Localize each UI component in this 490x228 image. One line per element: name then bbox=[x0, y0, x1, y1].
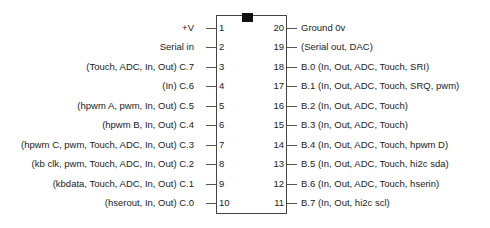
right-pin-label: B.2 (In, Out, ADC, Touch) bbox=[301, 99, 490, 113]
left-pin-lead bbox=[206, 106, 216, 107]
right-pin-lead bbox=[287, 184, 297, 185]
left-pin-number: 4 bbox=[219, 79, 237, 93]
right-pin-number: 13 bbox=[265, 157, 284, 171]
right-pin-label: (Serial out, DAC) bbox=[301, 40, 490, 54]
left-pin-label: (hpwm A, pwm, In, Out) C.5 bbox=[4, 99, 194, 113]
left-pin-lead bbox=[206, 125, 216, 126]
right-pin-number: 11 bbox=[265, 196, 284, 210]
left-pin-label: +V bbox=[4, 21, 194, 35]
pin-row: (Touch, ADC, In, Out) C.7318B.0 (In, Out… bbox=[0, 60, 490, 74]
right-pin-number: 12 bbox=[265, 177, 284, 191]
right-pin-lead bbox=[287, 47, 297, 48]
left-pin-label: (kbdata, Touch, ADC, In, Out) C.1 bbox=[4, 177, 194, 191]
right-pin-lead bbox=[287, 67, 297, 68]
right-pin-label: B.1 (In, Out, ADC, Touch, SRQ, pwm) bbox=[301, 79, 490, 93]
right-pin-label: Ground 0v bbox=[301, 21, 490, 35]
left-pin-label: (hpwm C, pwm, Touch, ADC, In, Out) C.3 bbox=[4, 138, 194, 152]
left-pin-number: 9 bbox=[219, 177, 237, 191]
right-pin-lead bbox=[287, 164, 297, 165]
left-pin-label: (kb clk, pwm, Touch, ADC, In, Out) C.2 bbox=[4, 157, 194, 171]
left-pin-label: (hserout, In, Out) C.0 bbox=[4, 196, 194, 210]
left-pin-lead bbox=[206, 67, 216, 68]
right-pin-label: B.0 (In, Out, ADC, Touch, SRI) bbox=[301, 60, 490, 74]
pin-row: +V120Ground 0v bbox=[0, 21, 490, 35]
left-pin-lead bbox=[206, 184, 216, 185]
right-pin-label: B.7 (In, Out, hi2c scl) bbox=[301, 196, 490, 210]
right-pin-lead bbox=[287, 86, 297, 87]
right-pin-number: 19 bbox=[265, 40, 284, 54]
left-pin-label: Serial in bbox=[4, 40, 194, 54]
right-pin-label: B.4 (In, Out, ADC, Touch, hpwm D) bbox=[301, 138, 490, 152]
left-pin-number: 10 bbox=[219, 196, 237, 210]
pin-row: (kbdata, Touch, ADC, In, Out) C.1912B.6 … bbox=[0, 177, 490, 191]
pinout-diagram: +V120Ground 0vSerial in219(Serial out, D… bbox=[0, 0, 490, 228]
left-pin-number: 7 bbox=[219, 138, 237, 152]
pin-row: Serial in219(Serial out, DAC) bbox=[0, 40, 490, 54]
left-pin-number: 8 bbox=[219, 157, 237, 171]
pin-row: (hpwm C, pwm, Touch, ADC, In, Out) C.371… bbox=[0, 138, 490, 152]
right-pin-lead bbox=[287, 145, 297, 146]
right-pin-number: 14 bbox=[265, 138, 284, 152]
left-pin-lead bbox=[206, 164, 216, 165]
left-pin-lead bbox=[206, 145, 216, 146]
pin-row: (hpwm B, In, Out) C.4615B.3 (In, Out, AD… bbox=[0, 118, 490, 132]
right-pin-lead bbox=[287, 106, 297, 107]
left-pin-lead bbox=[206, 28, 216, 29]
left-pin-number: 5 bbox=[219, 99, 237, 113]
right-pin-number: 18 bbox=[265, 60, 284, 74]
left-pin-lead bbox=[206, 47, 216, 48]
pin-row: (kb clk, pwm, Touch, ADC, In, Out) C.281… bbox=[0, 157, 490, 171]
right-pin-number: 15 bbox=[265, 118, 284, 132]
right-pin-number: 20 bbox=[265, 21, 284, 35]
right-pin-number: 17 bbox=[265, 79, 284, 93]
right-pin-number: 16 bbox=[265, 99, 284, 113]
left-pin-number: 6 bbox=[219, 118, 237, 132]
left-pin-label: (In) C.6 bbox=[4, 79, 194, 93]
pin-row: (hserout, In, Out) C.01011B.7 (In, Out, … bbox=[0, 196, 490, 210]
left-pin-number: 3 bbox=[219, 60, 237, 74]
right-pin-label: B.3 (In, Out, ADC, Touch) bbox=[301, 118, 490, 132]
left-pin-label: (Touch, ADC, In, Out) C.7 bbox=[4, 60, 194, 74]
left-pin-lead bbox=[206, 203, 216, 204]
left-pin-number: 2 bbox=[219, 40, 237, 54]
right-pin-lead bbox=[287, 28, 297, 29]
right-pin-lead bbox=[287, 203, 297, 204]
right-pin-label: B.6 (In, Out, ADC, Touch, hserin) bbox=[301, 177, 490, 191]
left-pin-lead bbox=[206, 86, 216, 87]
left-pin-number: 1 bbox=[219, 21, 237, 35]
right-pin-label: B.5 (In, Out, ADC, Touch, hi2c sda) bbox=[301, 157, 490, 171]
left-pin-label: (hpwm B, In, Out) C.4 bbox=[4, 118, 194, 132]
right-pin-lead bbox=[287, 125, 297, 126]
pin-row: (In) C.6417B.1 (In, Out, ADC, Touch, SRQ… bbox=[0, 79, 490, 93]
pin-row: (hpwm A, pwm, In, Out) C.5516B.2 (In, Ou… bbox=[0, 99, 490, 113]
